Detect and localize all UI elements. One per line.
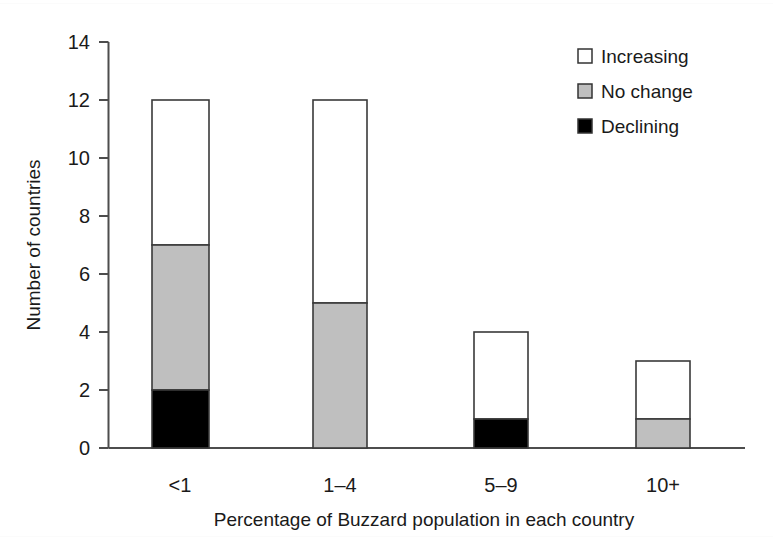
bar-segment-5-9-declining bbox=[474, 419, 528, 448]
legend-item-increasing: Increasing bbox=[578, 46, 689, 67]
y-tick-label-14: 14 bbox=[68, 31, 90, 53]
bar-segment-10plus-no-change bbox=[636, 419, 690, 448]
bar-group-lt1 bbox=[152, 100, 209, 448]
x-axis: <1 1–4 5–9 10+ Percentage of Buzzard pop… bbox=[109, 448, 746, 530]
legend-swatch-increasing-icon bbox=[578, 49, 592, 63]
bar-group-5-9 bbox=[474, 332, 528, 448]
y-tick-label-12: 12 bbox=[68, 89, 90, 111]
x-axis-title: Percentage of Buzzard population in each… bbox=[214, 509, 635, 530]
legend-item-no-change: No change bbox=[578, 81, 693, 102]
y-tick-label-6: 6 bbox=[79, 263, 90, 285]
legend-swatch-no-change-icon bbox=[578, 84, 592, 98]
y-tick-label-8: 8 bbox=[79, 205, 90, 227]
bar-group-10plus bbox=[636, 361, 690, 448]
bar-segment-5-9-increasing bbox=[474, 332, 528, 419]
x-tick-label-1: 1–4 bbox=[323, 474, 356, 496]
bar-segment-1-4-increasing bbox=[313, 100, 367, 303]
bar-segment-1-4-no-change bbox=[313, 303, 367, 448]
bar-segment-lt1-declining bbox=[152, 390, 209, 448]
y-tick-label-10: 10 bbox=[68, 147, 90, 169]
x-tick-label-2: 5–9 bbox=[484, 474, 517, 496]
scan-artifact-bottom bbox=[0, 536, 773, 537]
bar-segment-10plus-increasing bbox=[636, 361, 690, 419]
bar-chart: 14 12 10 8 6 4 2 0 Number of countries <… bbox=[0, 0, 773, 539]
y-tick-label-0: 0 bbox=[79, 437, 90, 459]
y-tick-label-2: 2 bbox=[79, 379, 90, 401]
x-tick-label-0: <1 bbox=[169, 474, 192, 496]
y-axis-title: Number of countries bbox=[23, 159, 44, 330]
legend-label-no-change: No change bbox=[601, 81, 693, 102]
x-tick-label-3: 10+ bbox=[646, 474, 680, 496]
bar-segment-lt1-no-change bbox=[152, 245, 209, 390]
legend-label-increasing: Increasing bbox=[601, 46, 689, 67]
legend-swatch-declining-icon bbox=[578, 119, 592, 133]
y-axis: 14 12 10 8 6 4 2 0 Number of countries bbox=[23, 31, 109, 459]
legend: Increasing No change Declining bbox=[578, 46, 693, 137]
chart-canvas: 14 12 10 8 6 4 2 0 Number of countries <… bbox=[0, 0, 773, 539]
y-tick-label-4: 4 bbox=[79, 321, 90, 343]
bar-segment-lt1-increasing bbox=[152, 100, 209, 245]
scan-artifact-top bbox=[0, 3, 773, 4]
legend-label-declining: Declining bbox=[601, 116, 679, 137]
bar-group-1-4 bbox=[313, 100, 367, 448]
legend-item-declining: Declining bbox=[578, 116, 679, 137]
